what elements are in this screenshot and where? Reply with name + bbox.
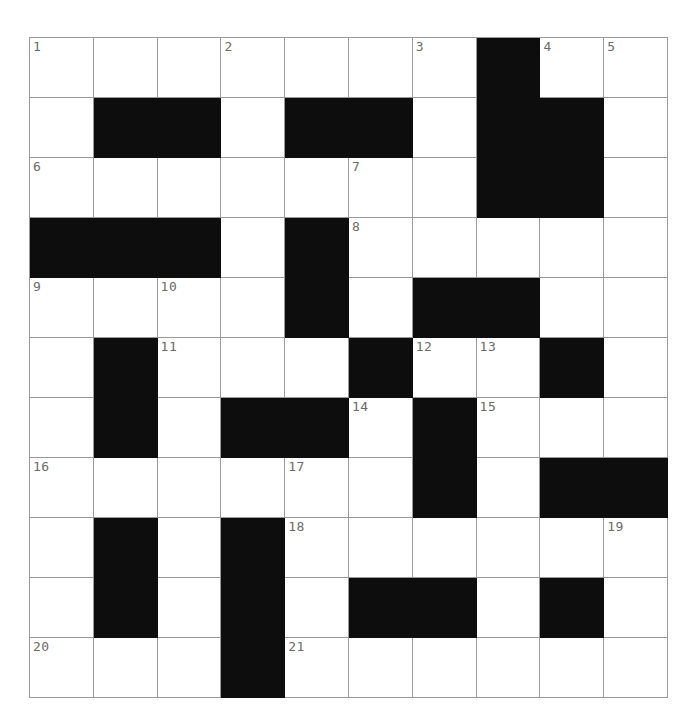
answer-cell[interactable]: [158, 398, 222, 458]
clue-number: 11: [161, 339, 178, 354]
answer-cell[interactable]: 3: [413, 38, 477, 98]
answer-cell[interactable]: [221, 278, 285, 338]
answer-cell[interactable]: 20: [30, 638, 94, 698]
answer-cell[interactable]: [94, 638, 158, 698]
blocked-cell: [94, 98, 158, 158]
answer-cell[interactable]: [158, 578, 222, 638]
blocked-cell: [221, 518, 285, 578]
answer-cell[interactable]: 19: [604, 518, 668, 578]
answer-cell[interactable]: [30, 338, 94, 398]
blocked-cell: [221, 398, 285, 458]
answer-cell[interactable]: [30, 578, 94, 638]
answer-cell[interactable]: [604, 218, 668, 278]
answer-cell[interactable]: [604, 278, 668, 338]
clue-number: 7: [352, 159, 360, 174]
answer-cell[interactable]: [604, 338, 668, 398]
blocked-cell: [285, 218, 349, 278]
answer-cell[interactable]: 8: [349, 218, 413, 278]
answer-cell[interactable]: [158, 458, 222, 518]
answer-cell[interactable]: [30, 98, 94, 158]
blocked-cell: [540, 338, 604, 398]
answer-cell[interactable]: 12: [413, 338, 477, 398]
answer-cell[interactable]: [349, 458, 413, 518]
blocked-cell: [94, 398, 158, 458]
answer-cell[interactable]: [477, 518, 541, 578]
clue-number: 6: [33, 159, 41, 174]
blocked-cell: [540, 458, 604, 518]
answer-cell[interactable]: [413, 218, 477, 278]
clue-number: 18: [288, 519, 305, 534]
clue-number: 16: [33, 459, 50, 474]
clue-number: 10: [161, 279, 178, 294]
answer-cell[interactable]: [349, 278, 413, 338]
answer-cell[interactable]: [221, 218, 285, 278]
answer-cell[interactable]: [221, 98, 285, 158]
answer-cell[interactable]: [285, 158, 349, 218]
answer-cell[interactable]: 4: [540, 38, 604, 98]
answer-cell[interactable]: [604, 158, 668, 218]
answer-cell[interactable]: [413, 638, 477, 698]
answer-cell[interactable]: 7: [349, 158, 413, 218]
answer-cell[interactable]: [540, 638, 604, 698]
answer-cell[interactable]: [604, 98, 668, 158]
answer-cell[interactable]: [158, 638, 222, 698]
answer-cell[interactable]: [285, 578, 349, 638]
answer-cell[interactable]: [604, 578, 668, 638]
answer-cell[interactable]: [30, 518, 94, 578]
answer-cell[interactable]: [285, 338, 349, 398]
answer-cell[interactable]: [94, 38, 158, 98]
answer-cell[interactable]: 15: [477, 398, 541, 458]
answer-cell[interactable]: [221, 338, 285, 398]
answer-cell[interactable]: 16: [30, 458, 94, 518]
answer-cell[interactable]: [94, 158, 158, 218]
answer-cell[interactable]: 11: [158, 338, 222, 398]
blocked-cell: [94, 578, 158, 638]
answer-cell[interactable]: 10: [158, 278, 222, 338]
blocked-cell: [94, 218, 158, 278]
answer-cell[interactable]: 13: [477, 338, 541, 398]
answer-cell[interactable]: [540, 278, 604, 338]
answer-cell[interactable]: [604, 638, 668, 698]
answer-cell[interactable]: [158, 38, 222, 98]
blocked-cell: [158, 218, 222, 278]
answer-cell[interactable]: 2: [221, 38, 285, 98]
answer-cell[interactable]: 17: [285, 458, 349, 518]
answer-cell[interactable]: [604, 398, 668, 458]
clue-number: 5: [607, 39, 615, 54]
answer-cell[interactable]: [285, 38, 349, 98]
answer-cell[interactable]: [349, 638, 413, 698]
answer-cell[interactable]: 18: [285, 518, 349, 578]
answer-cell[interactable]: [413, 158, 477, 218]
answer-cell[interactable]: [540, 518, 604, 578]
answer-cell[interactable]: [94, 458, 158, 518]
clue-number: 19: [607, 519, 624, 534]
blocked-cell: [285, 398, 349, 458]
answer-cell[interactable]: 5: [604, 38, 668, 98]
answer-cell[interactable]: [158, 518, 222, 578]
blocked-cell: [158, 98, 222, 158]
blocked-cell: [94, 518, 158, 578]
answer-cell[interactable]: 14: [349, 398, 413, 458]
answer-cell[interactable]: 21: [285, 638, 349, 698]
answer-cell[interactable]: [477, 458, 541, 518]
answer-cell[interactable]: 1: [30, 38, 94, 98]
answer-cell[interactable]: [349, 518, 413, 578]
answer-cell[interactable]: [540, 398, 604, 458]
clue-number: 14: [352, 399, 369, 414]
crossword-grid[interactable]: 123456789101112131415161718192021: [29, 37, 668, 698]
answer-cell[interactable]: [477, 638, 541, 698]
answer-cell[interactable]: [30, 398, 94, 458]
answer-cell[interactable]: 9: [30, 278, 94, 338]
answer-cell[interactable]: [477, 218, 541, 278]
answer-cell[interactable]: [413, 518, 477, 578]
blocked-cell: [221, 638, 285, 698]
answer-cell[interactable]: [94, 278, 158, 338]
answer-cell[interactable]: [413, 98, 477, 158]
answer-cell[interactable]: [477, 578, 541, 638]
answer-cell[interactable]: [221, 458, 285, 518]
answer-cell[interactable]: [158, 158, 222, 218]
answer-cell[interactable]: 6: [30, 158, 94, 218]
answer-cell[interactable]: [540, 218, 604, 278]
answer-cell[interactable]: [349, 38, 413, 98]
answer-cell[interactable]: [221, 158, 285, 218]
